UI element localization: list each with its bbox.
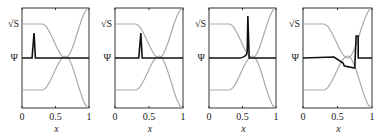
panel-3: √SΨ00.51x bbox=[195, 8, 279, 134]
lower-curve bbox=[115, 56, 183, 108]
x-tick-label: 1 bbox=[87, 111, 92, 122]
ylabel-psi: Ψ bbox=[11, 52, 19, 63]
lower-curve bbox=[22, 56, 89, 108]
x-tick-label: 0.5 bbox=[49, 111, 62, 122]
x-axis-label: x bbox=[335, 123, 341, 134]
x-tick-label: 1 bbox=[181, 111, 186, 122]
x-tick-label: 1 bbox=[274, 111, 279, 122]
panel-4: √SΨ00.51x bbox=[289, 8, 375, 134]
x-tick-label: 0.5 bbox=[236, 111, 249, 122]
x-tick-label: 0 bbox=[207, 111, 212, 122]
ylabel-psi: Ψ bbox=[292, 52, 300, 63]
x-axis-label: x bbox=[240, 123, 246, 134]
ylabel-sqrt-s: √S bbox=[289, 18, 300, 29]
psi-curve bbox=[303, 36, 372, 68]
sqrt-s-curve bbox=[115, 8, 183, 58]
x-axis-label: x bbox=[147, 123, 153, 134]
lower-curve bbox=[303, 56, 372, 108]
x-tick-label: 0 bbox=[113, 111, 118, 122]
figure: √SΨ00.51x√SΨ00.51x√SΨ00.51x√SΨ00.51x bbox=[0, 0, 383, 136]
ylabel-psi: Ψ bbox=[104, 52, 112, 63]
lower-curve bbox=[209, 56, 276, 108]
sqrt-s-curve bbox=[209, 8, 276, 58]
psi-curve bbox=[209, 16, 276, 58]
x-tick-label: 0 bbox=[301, 111, 306, 122]
ylabel-psi: Ψ bbox=[198, 52, 206, 63]
ylabel-sqrt-s: √S bbox=[8, 18, 19, 29]
x-tick-label: 0.5 bbox=[143, 111, 156, 122]
x-tick-label: 0 bbox=[20, 111, 25, 122]
x-tick-label: 1 bbox=[370, 111, 375, 122]
sqrt-s-curve bbox=[303, 8, 372, 58]
panel-2: √SΨ00.51x bbox=[101, 8, 186, 134]
x-axis-label: x bbox=[53, 123, 59, 134]
x-tick-label: 0.5 bbox=[331, 111, 344, 122]
ylabel-sqrt-s: √S bbox=[195, 18, 206, 29]
ylabel-sqrt-s: √S bbox=[101, 18, 112, 29]
panel-1: √SΨ00.51x bbox=[8, 8, 92, 134]
